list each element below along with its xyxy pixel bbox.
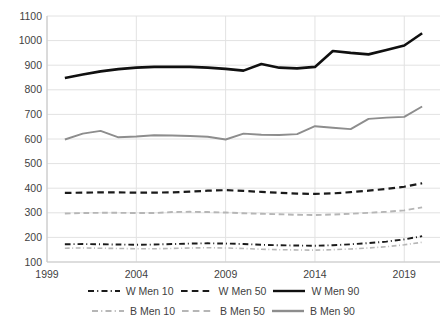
line-chart: 10020030040050060070080090010001100 1999… xyxy=(0,0,446,332)
x-tick-label: 1999 xyxy=(35,269,58,280)
x-tick-label: 2014 xyxy=(303,269,326,280)
legend-label: W Men 90 xyxy=(311,286,359,297)
x-tick-label: 2009 xyxy=(214,269,237,280)
legend-label: W Men 10 xyxy=(126,286,174,297)
legend-item-w-men-50[interactable]: W Men 50 xyxy=(180,286,267,297)
plot-area: 10020030040050060070080090010001100 1999… xyxy=(0,0,446,278)
legend-line-swatch-solid xyxy=(271,306,305,316)
legend-line-swatch-dash-dot xyxy=(91,306,125,316)
legend-item-b-men-90[interactable]: B Men 90 xyxy=(271,306,355,317)
legend-item-b-men-10[interactable]: B Men 10 xyxy=(91,306,175,317)
x-tick-label: 2004 xyxy=(125,269,148,280)
legend-item-w-men-90[interactable]: W Men 90 xyxy=(272,286,359,297)
x-axis-tick-labels: 19992004200920142019 xyxy=(0,0,446,278)
legend-row: W Men 10W Men 50W Men 90 xyxy=(0,281,446,301)
legend-row: B Men 10B Men 50B Men 90 xyxy=(0,301,446,321)
legend-line-swatch-dashed xyxy=(181,306,215,316)
legend-line-swatch-solid xyxy=(272,286,306,296)
legend-label: B Men 50 xyxy=(220,306,265,317)
legend-item-b-men-50[interactable]: B Men 50 xyxy=(181,306,265,317)
x-tick-label: 2019 xyxy=(393,269,416,280)
legend-item-w-men-10[interactable]: W Men 10 xyxy=(87,286,174,297)
chart-legend: W Men 10W Men 50W Men 90B Men 10B Men 50… xyxy=(0,281,446,332)
legend-label: W Men 50 xyxy=(219,286,267,297)
legend-label: B Men 90 xyxy=(310,306,355,317)
legend-line-swatch-dash-dot xyxy=(87,286,121,296)
legend-label: B Men 10 xyxy=(130,306,175,317)
legend-line-swatch-dashed xyxy=(180,286,214,296)
